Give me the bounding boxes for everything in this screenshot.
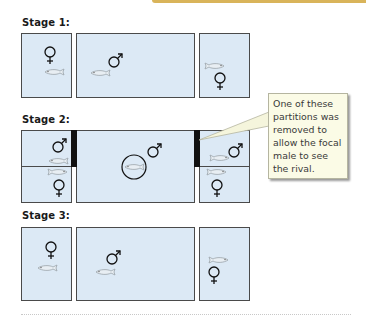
stage-1-right-fish-icon [205, 63, 224, 69]
stage-2-right-bottom-fish-icon [207, 169, 226, 175]
stage-3-left-female-icon [46, 242, 56, 259]
stage-2-center-fish-icon [125, 164, 144, 170]
stage-2-left-female-icon [54, 180, 64, 197]
stage-3-center-male-icon [107, 251, 120, 264]
stage-2-left-male-icon [53, 139, 66, 152]
stage-1-left-female-icon [45, 47, 55, 64]
stage-1-left-fish-icon [45, 69, 64, 75]
stage-2-center-male-icon [148, 144, 161, 157]
stage-1-right-female-icon [215, 73, 225, 90]
stage-2-right-top-fish-icon [210, 155, 229, 161]
stage-3-right-fish-icon [209, 257, 228, 263]
stage-1-center-male-icon [109, 54, 122, 67]
stage-3-left-fish-icon [38, 265, 57, 271]
callout-text: One of these partitions was removed to a… [273, 98, 341, 174]
stage-2-left-top-fish-icon [49, 158, 68, 164]
stage-2-right-female-icon [212, 180, 222, 197]
callout-note: One of these partitions was removed to a… [268, 93, 348, 179]
stage-2-right-male-icon [229, 144, 242, 157]
callout-pointer [199, 112, 269, 140]
stage-2-left-bottom-fish-icon [48, 169, 67, 175]
stage-3-center-fish-icon [96, 269, 115, 275]
dotted-separator [21, 314, 351, 315]
stage-1-center-fish-icon [91, 70, 110, 76]
stage-3-right-female-icon [209, 267, 219, 284]
